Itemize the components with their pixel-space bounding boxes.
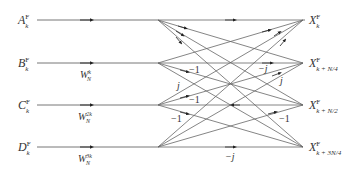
edge-label-j-a: j: [175, 80, 180, 91]
output-label-3: XFk + 3N/4: [308, 140, 342, 157]
input-label-a: AFk: [17, 13, 29, 30]
output-label-1: XFk + N/4: [308, 56, 338, 73]
edge-label-neg1-c: −1: [171, 113, 182, 124]
twiddle-label-b: WkN: [80, 69, 92, 82]
output-label-0: XFk: [308, 13, 320, 30]
input-label-b: BFk: [18, 56, 29, 73]
output-label-2: XFk + N/2: [308, 98, 338, 115]
twiddle-label-c: W2kN: [78, 111, 92, 124]
edge-label-neg1-b: −1: [189, 94, 200, 105]
input-label-d: DFk: [17, 140, 31, 157]
edge-label-neg1-a: −1: [189, 64, 200, 75]
input-label-c: CFk: [18, 98, 30, 115]
input-labels: AFk BFk CFk DFk: [17, 13, 31, 157]
edge-label-negj-b: −j: [225, 151, 235, 162]
twiddle-labels: WkN W2kN W3kN: [78, 69, 92, 166]
butterfly-diagram: AFk BFk CFk DFk WkN W2kN W3kN −1 j −1 −1…: [0, 0, 353, 176]
output-labels: XFk XFk + N/4 XFk + N/2 XFk + 3N/4: [308, 13, 342, 157]
twiddle-label-d: W3kN: [78, 153, 92, 166]
edge-label-neg1-d: −1: [279, 113, 290, 124]
edge-label-negj-a: −j: [258, 63, 268, 74]
